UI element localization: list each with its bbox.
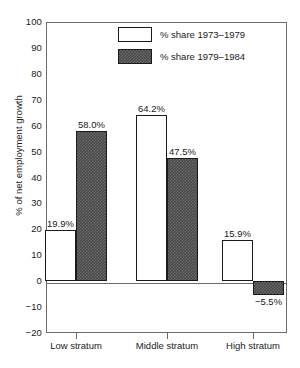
bar-chart: % of net employment growth 1009080706050… xyxy=(0,0,300,368)
legend-swatch-dark xyxy=(118,49,152,64)
legend-label-1973-1979: % share 1973–1979 xyxy=(160,29,245,41)
zero-baseline xyxy=(46,283,287,284)
legend-item-1973-1979: % share 1973–1979 xyxy=(118,26,245,43)
bar-value-label: 64.2% xyxy=(122,103,182,114)
y-tick-label: 0 xyxy=(0,275,42,287)
bar-value-label: 58.0% xyxy=(62,119,122,130)
bar-value-label: 47.5% xyxy=(153,146,213,157)
x-category-label: Low stratum xyxy=(28,340,124,352)
x-tick-mark xyxy=(76,333,77,339)
y-tick-label: 10 xyxy=(0,249,42,261)
bar xyxy=(76,131,107,281)
y-tick-label: 80 xyxy=(0,68,42,80)
y-tick-label: −20 xyxy=(0,327,42,339)
x-tick-mark xyxy=(253,333,254,339)
bar xyxy=(45,230,76,282)
chart-legend: % share 1973–1979 % share 1979–1984 xyxy=(118,26,245,70)
y-tick-label: −10 xyxy=(0,301,42,313)
y-tick-label: 40 xyxy=(0,172,42,184)
y-tick-label: 90 xyxy=(0,42,42,54)
legend-item-1979-1984: % share 1979–1984 xyxy=(118,48,245,65)
y-tick-label: 50 xyxy=(0,146,42,158)
x-tick-mark xyxy=(167,333,168,339)
y-tick-label: 30 xyxy=(0,197,42,209)
y-tick-label: 60 xyxy=(0,120,42,132)
bar-value-label: −5.5% xyxy=(239,296,299,307)
legend-swatch-light xyxy=(118,27,152,42)
y-tick-label: 70 xyxy=(0,94,42,106)
x-category-label: High stratum xyxy=(205,340,300,352)
bar xyxy=(167,158,198,281)
bar-value-label: 15.9% xyxy=(208,228,268,239)
legend-label-1979-1984: % share 1979–1984 xyxy=(160,51,245,63)
bar xyxy=(136,115,167,281)
y-tick-label: 100 xyxy=(0,16,42,28)
bar xyxy=(222,240,253,281)
bar xyxy=(253,281,284,295)
x-category-label: Middle stratum xyxy=(119,340,215,352)
